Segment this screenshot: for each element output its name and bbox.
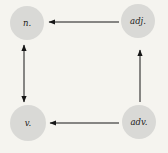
pos-conversion-diagram: n. adj. v. adv. bbox=[0, 0, 168, 153]
node-label-adverb: adv. bbox=[130, 117, 147, 127]
node-label-noun: n. bbox=[23, 18, 31, 28]
node-label-adjective: adj. bbox=[130, 16, 146, 26]
node-label-verb: v. bbox=[25, 118, 32, 128]
diagram-canvas: n. adj. v. adv. bbox=[0, 0, 168, 153]
